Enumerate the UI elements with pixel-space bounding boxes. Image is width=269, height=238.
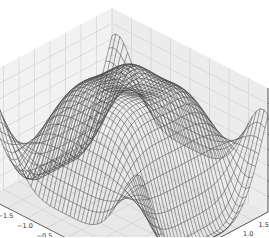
x-tick-label: −1.5	[0, 212, 13, 220]
axes-panes	[0, 8, 268, 237]
x-tick-label: −1.0	[17, 222, 33, 230]
wireframe-3d-plot: −2.0−1.5−1.0−0.50.00.51.01.52.0 −1.5−1.0…	[0, 0, 269, 237]
y-tick-label: 1.5	[259, 221, 269, 229]
x-tick-label: −0.5	[37, 232, 53, 237]
y-tick-label: 1.0	[243, 230, 253, 238]
